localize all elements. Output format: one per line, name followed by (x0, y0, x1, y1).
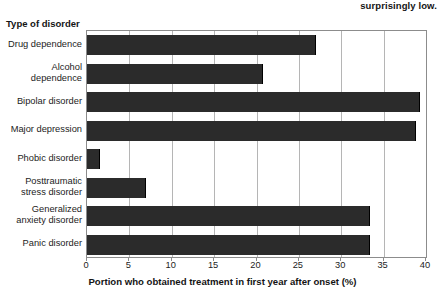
y-tick-label-line: Drug dependence (8, 39, 82, 50)
y-tick-label-line: anxiety disorder (16, 215, 82, 226)
y-tick-label-line: Bipolar disorder (17, 96, 82, 107)
x-tick-label: 25 (293, 260, 303, 270)
x-tick-mark (340, 258, 341, 261)
y-tick-label: Drug dependence (0, 30, 82, 59)
y-tick-label-line: Generalized (16, 204, 82, 215)
x-tick-mark (86, 258, 87, 261)
x-tick-label: 5 (126, 260, 131, 270)
x-tick-label: 30 (335, 260, 345, 270)
y-tick-label-line: Major depression (11, 124, 82, 135)
x-tick-mark (383, 258, 384, 261)
y-axis-title: Type of disorder (6, 18, 80, 29)
x-tick-label: 35 (377, 260, 387, 270)
x-tick-mark (425, 258, 426, 261)
x-tick-mark (128, 258, 129, 261)
y-tick-label: Alcoholdependence (0, 59, 82, 88)
x-tick-label: 15 (208, 260, 218, 270)
y-tick-label: Bipolar disorder (0, 87, 82, 116)
caption-fragment: surprisingly low. (360, 0, 437, 11)
y-tick-label-line: Phobic disorder (17, 153, 82, 164)
chart-figure: surprisingly low. Type of disorder Drug … (0, 0, 445, 297)
x-tick-label: 20 (250, 260, 260, 270)
y-tick-label: Major depression (0, 116, 82, 145)
x-axis-title: Portion who obtained treatment in first … (0, 276, 445, 287)
y-tick-label-line: dependence (31, 73, 82, 84)
x-tick-label: 10 (166, 260, 176, 270)
y-tick-label: Posttraumaticstress disorder (0, 173, 82, 202)
y-tick-label-line: Panic disorder (23, 238, 82, 249)
y-tick-label: Generalizedanxiety disorder (0, 201, 82, 230)
y-tick-label: Phobic disorder (0, 144, 82, 173)
y-tick-label: Panic disorder (0, 230, 82, 259)
y-axis-tick-labels: Drug dependenceAlcoholdependenceBipolar … (0, 30, 445, 258)
x-tick-mark (171, 258, 172, 261)
x-tick-label: 0 (83, 260, 88, 270)
x-tick-mark (213, 258, 214, 261)
x-axis-tick-labels: 0510152025303540 (0, 260, 445, 274)
x-tick-mark (298, 258, 299, 261)
y-tick-label-line: Posttraumatic (21, 176, 82, 187)
y-tick-label-line: Alcohol (31, 62, 82, 73)
x-tick-label: 40 (420, 260, 430, 270)
x-tick-mark (256, 258, 257, 261)
y-tick-label-line: stress disorder (21, 187, 82, 198)
